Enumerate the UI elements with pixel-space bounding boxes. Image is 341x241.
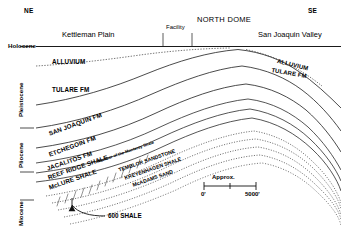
facility-extent-markers: [163, 33, 192, 46]
surface-label-facility: Facility: [166, 24, 185, 30]
formation-label-tulare-fm: TULARE FM: [52, 87, 89, 93]
epoch-label-pliocene: Pliocene: [18, 143, 24, 168]
epoch-label-pleistocene: Pleistocene: [18, 83, 24, 117]
orientation-label-right: SE: [308, 8, 317, 15]
surface-label-north-dome: NORTH DOME: [197, 16, 251, 24]
scale-bar: [204, 182, 256, 190]
epoch-label-miocene: Miocene: [18, 201, 24, 226]
surface-label-kettleman-plain: Kettleman Plain: [62, 31, 115, 39]
surface-label-san-joaquin-valley: San Joaquin Valley: [258, 31, 322, 39]
callout-label-600-shale: 600 SHALE: [108, 213, 142, 219]
orientation-label-left: NE: [24, 8, 33, 15]
geologic-cross-section-figure: NE SE Kettleman Plain Facility NORTH DOM…: [0, 0, 341, 241]
epoch-label-holocene: Holocene: [8, 43, 36, 49]
scale-bar-max-label: 5000': [245, 191, 260, 197]
formation-label-alluvium: ALLUVIUM: [52, 59, 85, 65]
epoch-axis-ticks: [20, 47, 34, 201]
scale-bar-title: Approx.: [212, 174, 235, 180]
scale-bar-min-label: 0': [201, 191, 206, 197]
